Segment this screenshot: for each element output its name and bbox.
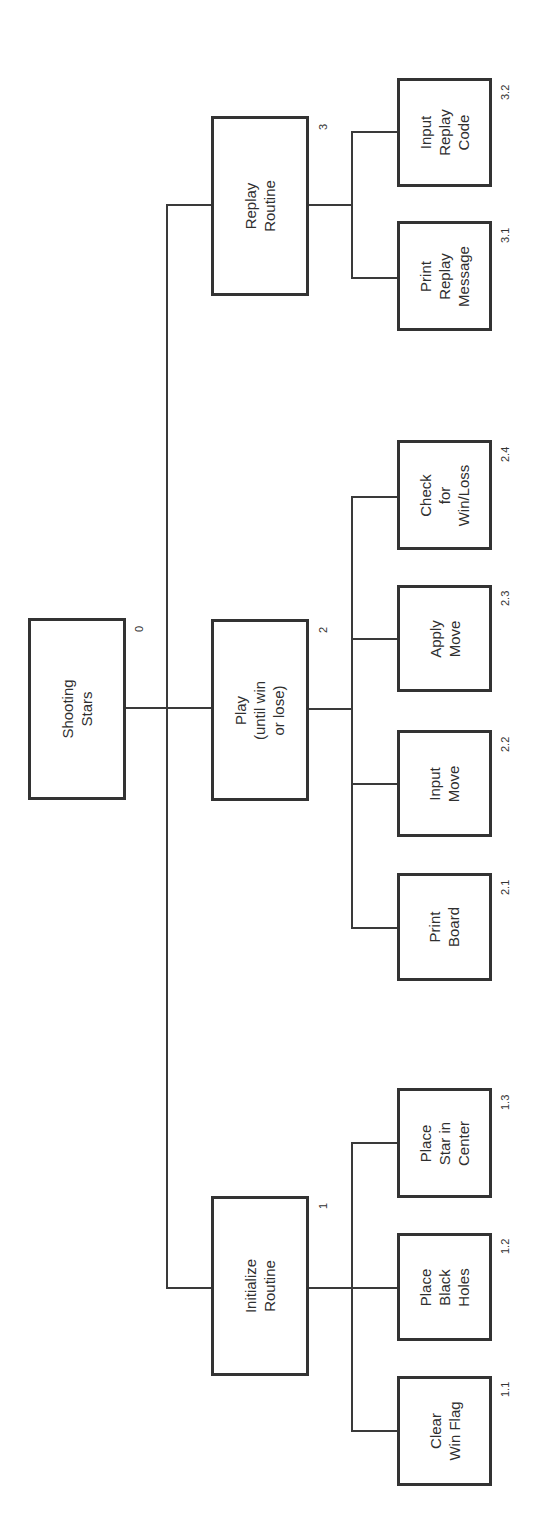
module-box-clear-win-flag: Clear Win Flag: [397, 1376, 492, 1486]
module-box-replay-routine: Replay Routine: [211, 116, 309, 296]
replay-left-connector: [166, 204, 212, 206]
module-number: 2.1: [499, 880, 511, 895]
module-label: Clear Win Flag: [426, 1401, 464, 1460]
module-label: Place Star in Center: [416, 1120, 473, 1165]
module-label: Shooting Stars: [58, 679, 96, 738]
module-label: Place Black Holes: [416, 1268, 473, 1306]
module-box-shooting-stars: Shooting Stars: [28, 618, 126, 800]
replay-child-connector: [351, 131, 398, 133]
module-number: 3.1: [499, 228, 511, 243]
module-number: 0: [133, 626, 145, 632]
replay-right-connector: [308, 204, 352, 206]
replay-bus-line: [351, 131, 353, 279]
module-label: Apply Move: [426, 620, 464, 658]
module-label: Input Move: [426, 765, 464, 802]
module-number: 1.1: [499, 1382, 511, 1397]
main-bus-line: [166, 204, 168, 1289]
module-number: 1.3: [499, 1095, 511, 1110]
module-label: Initialize Routine: [241, 1259, 279, 1313]
module-number: 2.3: [499, 591, 511, 606]
module-label: Input Replay Code: [416, 109, 473, 156]
play-child-connector: [351, 783, 398, 785]
module-box-input-move: Input Move: [397, 730, 492, 837]
module-number: 3: [317, 124, 329, 130]
play-bus-line: [351, 496, 353, 929]
module-box-apply-move: Apply Move: [397, 585, 492, 692]
play-child-connector: [351, 927, 398, 929]
module-label: Check for Win/Loss: [416, 464, 473, 526]
module-box-play: Play (until win or lose): [211, 619, 309, 801]
module-box-place-star-in-center: Place Star in Center: [397, 1088, 492, 1198]
module-label: Replay Routine: [241, 180, 279, 232]
initialize-child-connector: [351, 1142, 398, 1144]
module-label: Play (until win or lose): [232, 680, 289, 739]
module-number: 2: [317, 627, 329, 633]
module-box-initialize-routine: Initialize Routine: [211, 1196, 309, 1376]
module-number: 1: [317, 1203, 329, 1209]
module-box-place-black-holes: Place Black Holes: [397, 1233, 492, 1341]
root-connector: [126, 707, 212, 709]
initialize-child-connector: [351, 1430, 398, 1432]
play-child-connector: [351, 496, 398, 498]
replay-child-connector: [351, 277, 398, 279]
module-label: Print Board: [426, 907, 464, 947]
play-child-connector: [351, 638, 398, 640]
module-box-input-replay-code: Input Replay Code: [397, 78, 492, 187]
module-number: 2.2: [499, 737, 511, 752]
module-number: 1.2: [499, 1239, 511, 1254]
initialize-child-connector: [351, 1287, 398, 1289]
initialize-right-connector: [308, 1287, 352, 1289]
initialize-left-connector: [166, 1287, 212, 1289]
module-box-print-board: Print Board: [397, 873, 492, 981]
module-box-print-replay-message: Print Replay Message: [397, 221, 492, 331]
module-number: 3.2: [499, 85, 511, 100]
module-number: 2.4: [499, 447, 511, 462]
module-box-check-for-win-loss: Check for Win/Loss: [397, 440, 492, 550]
play-right-connector: [308, 708, 352, 710]
module-label: Print Replay Message: [416, 246, 473, 307]
